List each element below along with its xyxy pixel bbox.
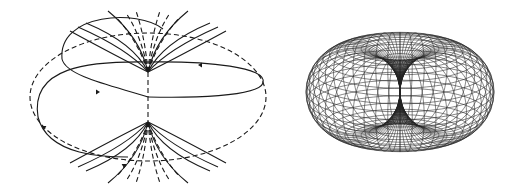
right-horizontal-loop [148,62,263,97]
figure-canvas [0,0,526,195]
torus-wireframe-diagram [306,32,494,151]
field-line-upper [70,31,148,72]
upper-left-loop [62,18,163,97]
field-line-upper [148,31,226,72]
field-line-lower [148,122,218,167]
field-line-diagram [30,11,266,183]
lower-left-loop [37,62,148,157]
arrowhead-icon [96,90,100,95]
